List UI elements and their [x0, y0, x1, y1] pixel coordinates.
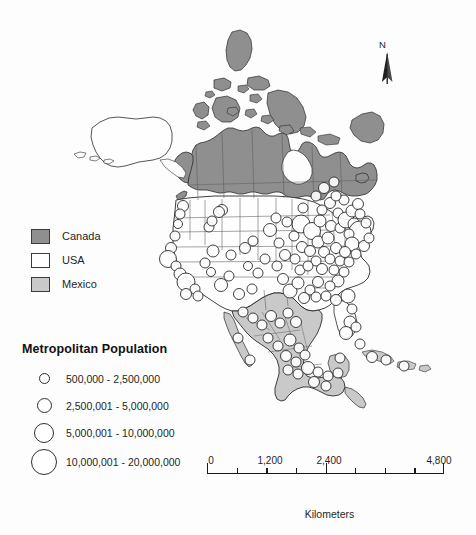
arctic-islet-h — [300, 127, 316, 137]
swatch-mexico — [31, 277, 50, 292]
arctic-islet-j — [197, 121, 210, 130]
legend-item-mexico: Mexico — [31, 272, 151, 296]
legend-label-canada: Canada — [62, 230, 101, 242]
population-legend: Metropolitan Population 500,000 - 2,500,… — [22, 342, 222, 478]
population-legend-title: Metropolitan Population — [22, 342, 222, 356]
arctic-islet-b — [250, 94, 262, 103]
population-label-4: 10,000,001 - 20,000,000 — [66, 456, 180, 468]
population-circle-1 — [39, 373, 50, 384]
scale-bar-unit-label: Kilometers — [207, 508, 452, 520]
population-circle-4 — [31, 449, 57, 475]
map-page: N Canada USA Mexico Metropolitan Populat… — [0, 0, 476, 535]
scale-bar-line — [207, 473, 444, 474]
greenland-edge — [350, 112, 384, 143]
swatch-canada — [31, 229, 50, 244]
population-circle-3 — [34, 423, 54, 443]
population-label-3: 5,000,001 - 10,000,000 — [66, 427, 175, 439]
legend-item-usa: USA — [31, 248, 151, 272]
population-circle-2 — [37, 398, 52, 413]
legend-item-canada: Canada — [31, 224, 151, 248]
population-label-2: 2,500,001 - 5,000,000 — [66, 400, 169, 412]
north-arrow-icon — [372, 40, 404, 90]
banks-island — [193, 102, 209, 119]
population-class-3: 5,000,001 - 10,000,000 — [22, 419, 222, 446]
arctic-islet-e — [245, 109, 257, 118]
caribbean-islet — [419, 365, 431, 372]
arctic-islet-c — [205, 91, 215, 98]
scale-bar: 0 1,200 2,400 4,800 — [207, 455, 452, 500]
devon-island — [247, 76, 270, 90]
alaska — [91, 117, 172, 167]
population-class-1: 500,000 - 2,500,000 — [22, 365, 222, 392]
legend-label-mexico: Mexico — [62, 278, 97, 290]
swatch-usa — [31, 253, 50, 268]
north-arrow: N — [372, 40, 404, 90]
arctic-islet-a — [238, 85, 249, 93]
legend-label-usa: USA — [62, 254, 85, 266]
country-legend: Canada USA Mexico — [31, 224, 151, 296]
melville-island — [214, 78, 231, 91]
ellesmere-island — [226, 30, 252, 71]
population-class-4: 10,000,001 - 20,000,000 — [22, 446, 222, 478]
arctic-islet-i — [318, 134, 340, 145]
central-america — [345, 387, 366, 408]
north-arrow-label: N — [379, 40, 386, 50]
canada-landmass — [174, 30, 377, 200]
population-class-2: 2,500,001 - 5,000,000 — [22, 392, 222, 419]
population-label-1: 500,000 - 2,500,000 — [66, 373, 160, 385]
